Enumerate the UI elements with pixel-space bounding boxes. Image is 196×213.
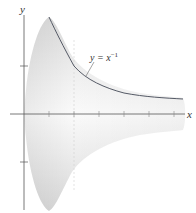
y-axis-label: y bbox=[19, 3, 25, 15]
curve-label-exponent: −1 bbox=[111, 51, 119, 59]
x-axis-label: x bbox=[186, 108, 192, 120]
curve-label: y = x−1 bbox=[89, 51, 119, 63]
gabriels-horn-diagram: y x y = x−1 bbox=[0, 0, 196, 213]
curve-label-base: y = x bbox=[89, 52, 111, 63]
